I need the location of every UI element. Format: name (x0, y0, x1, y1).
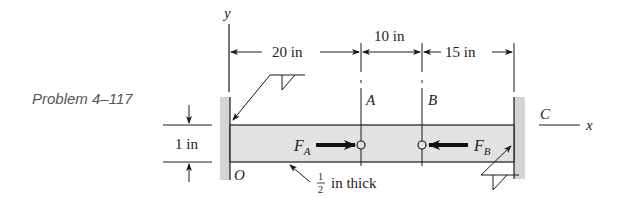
point-a-label: A (365, 92, 376, 108)
force-fa-subscript: A (303, 145, 311, 157)
beam-diagram: Problem 4–117 y 20 in 10 in 15 in A B (0, 0, 624, 210)
problem-caption: Problem 4–117 (32, 90, 133, 107)
beam (230, 125, 514, 162)
origin-label: O (234, 167, 245, 183)
thickness-denominator: 2 (318, 184, 323, 195)
top-dimensions: 20 in 10 in 15 in (231, 28, 514, 92)
x-axis-label: x (585, 117, 593, 133)
dimension-10in: 10 in (374, 28, 405, 44)
y-axis-label: y (222, 5, 231, 21)
hole-b (418, 141, 426, 149)
force-fa-symbol: F (293, 137, 304, 154)
point-c-label: C (540, 106, 551, 122)
force-fb-symbol: F (473, 137, 484, 154)
thickness-numerator: 1 (318, 171, 323, 182)
dimension-15in: 15 in (445, 44, 476, 60)
thickness-label: in thick (331, 175, 377, 191)
dimension-20in: 20 in (272, 44, 303, 60)
y-axis: y (222, 5, 231, 92)
dimension-1in: 1 in (175, 136, 198, 152)
height-dimension: 1 in (163, 105, 212, 182)
left-wall (220, 97, 230, 180)
force-fb-subscript: B (484, 145, 491, 157)
right-wall (514, 97, 525, 179)
thickness-callout: 1 2 in thick (290, 165, 377, 195)
point-b-label: B (428, 92, 437, 108)
weld-symbol-left (233, 75, 305, 120)
hole-a (357, 141, 365, 149)
